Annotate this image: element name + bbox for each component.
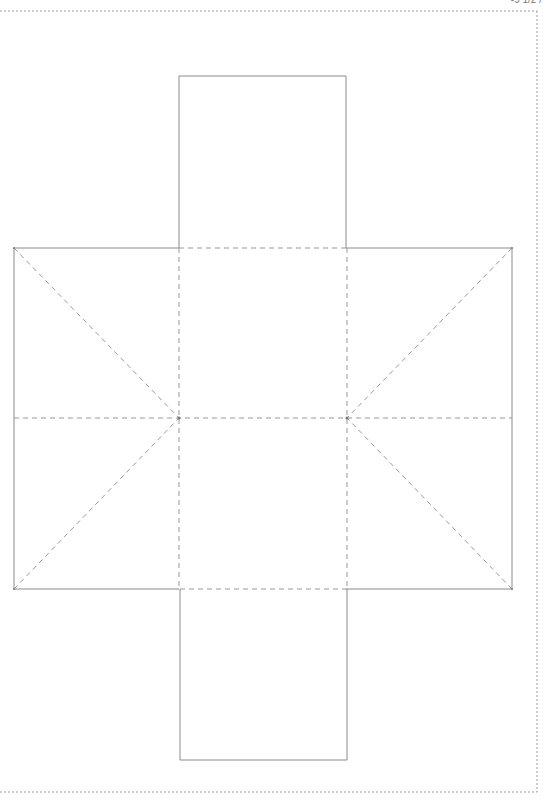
junction-left: [178, 417, 181, 420]
corner-top-left: [13, 247, 15, 249]
corner-bottom-left: [13, 588, 15, 590]
corner-bottom-right: [511, 588, 513, 590]
top-flap-outline: [179, 76, 346, 248]
fold-diagonal-left-lower: [14, 418, 179, 589]
corner-top-right: [511, 247, 513, 249]
box-net-diagram: [0, 0, 546, 799]
junction-right: [346, 417, 349, 420]
fold-diagonal-right-upper: [347, 248, 512, 418]
fold-diagonal-left-upper: [14, 248, 179, 418]
bottom-flap-outline: [180, 589, 347, 760]
fold-diagonal-right-lower: [347, 418, 512, 589]
